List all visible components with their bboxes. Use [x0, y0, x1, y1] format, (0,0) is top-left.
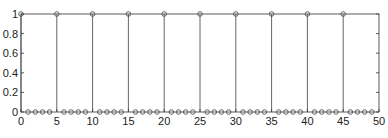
data-stems — [19, 12, 374, 115]
x-tick-label: 20 — [158, 115, 170, 127]
x-tick-label: 50 — [373, 115, 385, 127]
x-tick-label: 35 — [265, 115, 277, 127]
y-axis-ticks: 00.20.40.60.81 — [3, 8, 379, 118]
y-tick-label: 0.8 — [3, 28, 18, 40]
x-tick-label: 40 — [301, 115, 313, 127]
y-tick-label: 0.2 — [3, 86, 18, 98]
y-tick-label: 0.6 — [3, 47, 18, 59]
x-tick-label: 5 — [54, 115, 60, 127]
y-tick-label: 0.4 — [3, 67, 18, 79]
x-tick-label: 45 — [337, 115, 349, 127]
x-tick-label: 25 — [194, 115, 206, 127]
y-tick-label: 1 — [12, 8, 18, 20]
x-tick-label: 0 — [18, 115, 24, 127]
x-tick-label: 15 — [122, 115, 134, 127]
x-tick-label: 10 — [86, 115, 98, 127]
stem-chart: 05101520253035404550 00.20.40.60.81 — [0, 0, 388, 138]
x-tick-label: 30 — [230, 115, 242, 127]
y-tick-label: 0 — [12, 106, 18, 118]
